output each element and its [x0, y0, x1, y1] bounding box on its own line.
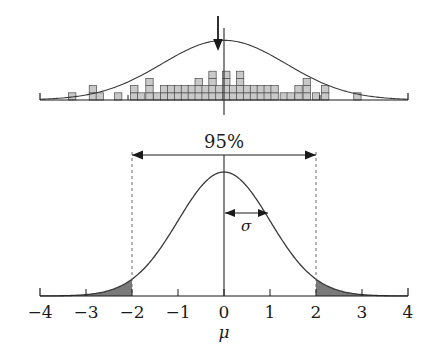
axis-tick-label: 3	[357, 302, 368, 322]
histogram-bar-cell	[264, 86, 271, 93]
histogram-bar-cell	[216, 93, 223, 100]
histogram-bar-cell	[209, 71, 216, 78]
x-axis-label: μ	[218, 322, 229, 342]
sample-mean-arrow-icon	[213, 16, 223, 51]
axis-tick-label: −1	[165, 302, 190, 322]
histogram-bar-cell	[146, 93, 153, 100]
histogram-bar-cell	[250, 93, 257, 100]
axis-tick-label: 0	[219, 302, 230, 322]
histogram-bar-cell	[181, 93, 188, 100]
histogram-bar-cell	[195, 93, 202, 100]
histogram-bar-cell	[167, 86, 174, 93]
axis-tick-label: 1	[265, 302, 276, 322]
histogram-bar-cell	[312, 93, 319, 100]
histogram-bar-cell	[138, 93, 145, 100]
histogram-bar-cell	[202, 86, 209, 93]
axis-tick-label: −3	[73, 302, 98, 322]
histogram-bar-cell	[96, 93, 103, 100]
histogram-bar-cell	[161, 93, 168, 100]
histogram-bar-cell	[89, 86, 96, 93]
histogram-bar-cell	[230, 93, 237, 100]
histogram-bar-cell	[322, 86, 329, 93]
sigma-arrow	[225, 209, 268, 217]
histogram-bar-cell	[295, 93, 302, 100]
histogram-bar-cell	[230, 86, 237, 93]
histogram-bar-cell	[209, 86, 216, 93]
histogram-bar-cell	[322, 93, 329, 100]
histogram-bar-cell	[146, 78, 153, 85]
histogram-bar-cell	[236, 93, 243, 100]
histogram-bar-cell	[271, 86, 278, 93]
histogram-bar-cell	[216, 86, 223, 93]
histogram-bar-cell	[236, 86, 243, 93]
histogram-bar-cell	[257, 86, 264, 93]
histogram-bar-cell	[146, 86, 153, 93]
histogram-bars	[69, 71, 362, 100]
histogram-bar-cell	[303, 86, 310, 93]
top-histogram-panel	[40, 16, 408, 115]
histogram-bar-cell	[250, 86, 257, 93]
bottom-normal-panel: 95% σ −4−3−2−101234 μ	[27, 131, 413, 342]
histogram-bar-cell	[243, 86, 250, 93]
sigma-label: σ	[241, 217, 252, 235]
histogram-bar-cell	[131, 86, 138, 93]
histogram-bar-cell	[161, 86, 168, 93]
histogram-bar-cell	[202, 93, 209, 100]
histogram-bar-cell	[195, 78, 202, 85]
figure-canvas: 95% σ −4−3−2−101234 μ	[0, 0, 438, 358]
histogram-bar-cell	[264, 93, 271, 100]
histogram-bar-cell	[243, 93, 250, 100]
histogram-bar-cell	[257, 93, 264, 100]
histogram-bar-cell	[188, 93, 195, 100]
statistics-figure: 95% σ −4−3−2−101234 μ	[0, 0, 438, 358]
histogram-bar-cell	[174, 93, 181, 100]
histogram-bar-cell	[115, 93, 122, 100]
histogram-bar-cell	[209, 93, 216, 100]
histogram-bar-cell	[181, 86, 188, 93]
histogram-bar-cell	[236, 78, 243, 85]
histogram-bar-cell	[195, 86, 202, 93]
histogram-bar-cell	[303, 78, 310, 85]
histogram-bar-cell	[209, 78, 216, 85]
histogram-bar-cell	[131, 93, 138, 100]
histogram-bar-cell	[188, 86, 195, 93]
axis-tick-label: −4	[27, 302, 52, 322]
confidence-interval-label: 95%	[204, 131, 244, 152]
axis-tick-labels: −4−3−2−101234	[27, 302, 413, 322]
axis-tick-label: 2	[311, 302, 322, 322]
histogram-bar-cell	[280, 93, 287, 100]
histogram-bar-cell	[303, 93, 310, 100]
histogram-bar-cell	[271, 93, 278, 100]
histogram-bar-cell	[295, 86, 302, 93]
axis-tick-label: −2	[119, 302, 144, 322]
histogram-bar-cell	[174, 86, 181, 93]
histogram-bar-cell	[236, 71, 243, 78]
histogram-bar-cell	[167, 93, 174, 100]
histogram-bar-cell	[154, 93, 161, 100]
axis-tick-label: 4	[403, 302, 414, 322]
histogram-bar-cell	[287, 93, 294, 100]
